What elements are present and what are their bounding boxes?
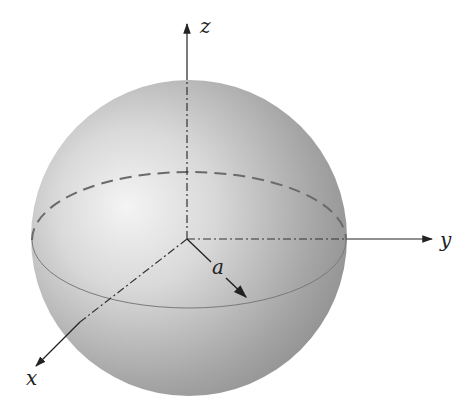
radius-label: a xyxy=(212,255,224,279)
y-axis-label: y xyxy=(439,228,452,252)
x-axis-label: x xyxy=(26,366,37,390)
sphere-diagram: z y x a xyxy=(0,0,472,418)
z-axis-label: z xyxy=(199,14,211,38)
sphere xyxy=(31,80,347,396)
